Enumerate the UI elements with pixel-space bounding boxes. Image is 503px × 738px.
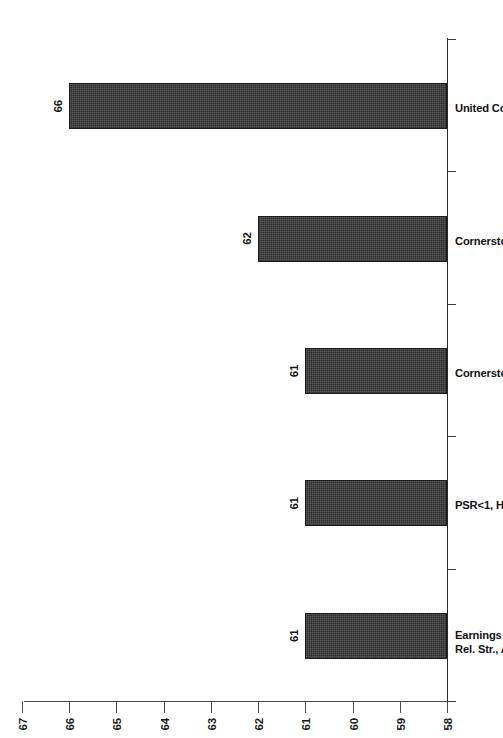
bar: 61 [305,613,447,659]
bar-chart: 58596061626364656667 6161616266 Earnings… [0,0,503,738]
category-label: Earnings Yield>5% (PE<20), High Rel. Str… [455,629,503,656]
value-tick-label: 64 [159,718,171,730]
value-tick-label: 63 [206,718,218,730]
category-axis-line [447,38,448,702]
category-label: Cornerstone Value, Large Stocks [455,235,503,249]
value-tick-label: 61 [300,718,312,730]
value-tick-label: 59 [395,718,407,730]
value-tick: 59 [400,701,401,713]
value-tick: 62 [258,701,259,713]
bar: 61 [305,348,447,394]
value-tick: 67 [22,701,23,713]
bar-value-label: 61 [288,630,300,642]
chart-page: 58596061626364656667 6161616266 Earnings… [0,0,503,738]
bar-value-label: 66 [52,100,64,112]
value-tick: 66 [69,701,70,713]
bar-value-label: 62 [241,232,253,244]
bar: 61 [305,480,447,526]
value-tick-label: 65 [111,718,123,730]
bar-value-label: 61 [288,365,300,377]
value-tick-label: 66 [64,718,76,730]
value-tick-label: 62 [253,718,265,730]
category-tick [447,436,456,437]
value-tick: 60 [353,701,354,713]
value-tick: 63 [211,701,212,713]
category-label: United Cornerstone strategies [455,102,503,116]
category-tick [447,701,456,702]
value-tick: 65 [116,701,117,713]
bar: 62 [258,216,447,262]
bar-value-label: 61 [288,497,300,509]
page-bleed-artifact [300,36,302,45]
category-tick [447,39,456,40]
value-tick: 58 [447,701,448,713]
value-tick: 61 [305,701,306,713]
category-label: PSR<1, High Rel. Str., All Stocks [455,499,503,513]
value-tick: 64 [164,701,165,713]
value-tick-label: 67 [17,718,29,730]
bars-container: 6161616266 [22,40,447,702]
bar: 66 [69,83,447,129]
category-tick [447,569,456,570]
value-tick-label: 58 [442,718,454,730]
value-tick-label: 60 [348,718,360,730]
category-tick [447,304,456,305]
category-tick [447,171,456,172]
rotated-chart-stage: 58596061626364656667 6161616266 Earnings… [0,0,503,738]
category-label: Cornerstone Growth, All Stocks [455,367,503,381]
